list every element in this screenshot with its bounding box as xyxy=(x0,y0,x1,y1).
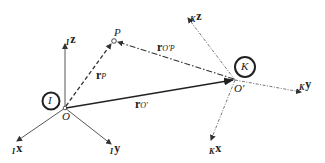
point-P-label: P xyxy=(114,27,121,38)
axis-Ix xyxy=(17,108,65,141)
diagram-graphics xyxy=(0,0,325,163)
frame-I-label: I xyxy=(48,95,52,106)
point-P-marker xyxy=(112,39,117,44)
vector-rO xyxy=(66,80,233,108)
reference-frames-diagram: I K O O' P Iz Ix Iy Kz Ky Kx rP rO' rO'P xyxy=(0,0,325,163)
axis-Iy xyxy=(65,108,111,144)
frame-K-label: K xyxy=(241,61,248,72)
vector-rOP-label: rO'P xyxy=(157,41,175,53)
vector-rOP xyxy=(118,42,234,79)
axis-Iz-label: Iz xyxy=(66,33,75,47)
axis-Ky xyxy=(235,80,301,92)
axis-Kz-label: Kz xyxy=(190,10,202,24)
axis-Kz xyxy=(188,18,235,80)
axis-Kx xyxy=(211,80,235,140)
axis-Kx-label: Kx xyxy=(209,142,221,156)
origin-Oprime-label: O' xyxy=(234,83,244,94)
vector-rP-label: rP xyxy=(96,69,106,81)
vector-rO-label: rO' xyxy=(135,98,148,110)
axis-Ix-label: Ix xyxy=(12,142,22,156)
origin-O-label: O xyxy=(62,111,70,122)
axis-Ky-label: Ky xyxy=(299,78,311,92)
axis-Iy-label: Iy xyxy=(110,142,120,156)
